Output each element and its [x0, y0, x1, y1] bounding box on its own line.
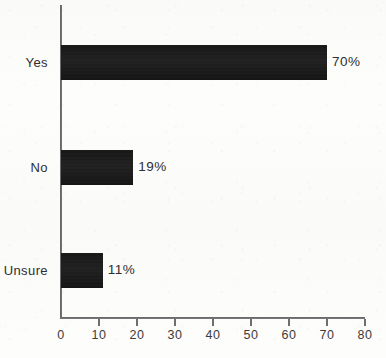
x-axis-tick-label: 0 [57, 328, 65, 342]
x-axis-tick-label: 80 [357, 328, 372, 342]
bar-unsure[interactable] [61, 253, 103, 288]
bar-no[interactable] [61, 150, 133, 185]
value-label-no: 19% [138, 159, 167, 174]
category-label-unsure: Unsure [4, 263, 48, 278]
value-label-yes: 70% [332, 54, 361, 69]
value-label-unsure: 11% [108, 262, 136, 277]
x-axis-tick-label: 40 [205, 328, 220, 342]
x-axis-tick-label: 50 [243, 328, 258, 342]
x-axis-tick-mark [364, 319, 366, 326]
x-axis-tick-mark [136, 319, 138, 326]
category-label-yes: Yes [26, 55, 48, 70]
x-axis-tick-mark [212, 319, 214, 326]
x-axis-tick-mark [288, 319, 290, 326]
category-label-no: No [31, 160, 48, 175]
bar-yes[interactable] [61, 45, 327, 80]
x-axis-tick-mark [326, 319, 328, 326]
bar-chart: 01020304050607080 Yes70%No19%Unsure11% [0, 0, 386, 358]
x-axis-tick-label: 60 [281, 328, 296, 342]
x-axis-tick-mark [98, 319, 100, 326]
x-axis-tick-label: 20 [129, 328, 144, 342]
x-axis-tick-label: 30 [167, 328, 182, 342]
x-axis-tick-label: 70 [319, 328, 334, 342]
x-axis-tick-mark [174, 319, 176, 326]
x-axis-tick-label: 10 [91, 328, 106, 342]
x-axis-tick-mark [250, 319, 252, 326]
